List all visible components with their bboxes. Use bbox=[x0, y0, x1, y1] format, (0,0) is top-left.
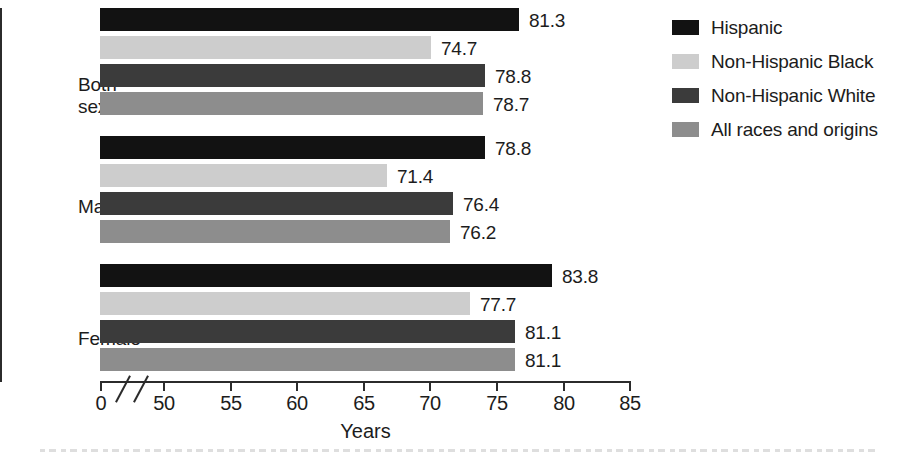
y-axis-line bbox=[0, 8, 2, 382]
bar-non-hispanic-white[interactable] bbox=[100, 192, 453, 215]
x-axis-tick-label: 85 bbox=[619, 392, 641, 414]
bar-value-label: 78.8 bbox=[495, 66, 531, 85]
bar-group-both-sexes: 81.3 74.7 78.8 78.7 bbox=[100, 8, 630, 132]
plot-area: 81.3 74.7 78.8 78.7 78.8 71.4 bbox=[100, 8, 630, 380]
x-axis-line bbox=[100, 381, 631, 383]
bar-value-label: 83.8 bbox=[562, 266, 598, 285]
bar-value-label: 78.8 bbox=[495, 138, 531, 157]
bar-hispanic[interactable] bbox=[100, 264, 552, 287]
bar-value-label: 81.3 bbox=[529, 10, 565, 29]
x-axis-tick bbox=[496, 381, 498, 391]
legend-swatch-icon bbox=[672, 54, 699, 69]
bar-value-label: 77.7 bbox=[480, 294, 516, 313]
x-axis-tick bbox=[230, 381, 232, 391]
x-axis-tick-label: 0 bbox=[96, 392, 107, 414]
life-expectancy-bar-chart: Both sexes Male Female 81.3 74.7 78.8 78… bbox=[0, 0, 916, 455]
legend-item-non-hispanic-white[interactable]: Non-Hispanic White bbox=[672, 84, 875, 106]
bar-value-label: 74.7 bbox=[441, 38, 477, 57]
bar-non-hispanic-black[interactable] bbox=[100, 292, 470, 315]
bar-non-hispanic-black[interactable] bbox=[100, 164, 387, 187]
x-axis-tick bbox=[296, 381, 298, 391]
bar-value-label: 71.4 bbox=[397, 166, 433, 185]
legend-item-non-hispanic-black[interactable]: Non-Hispanic Black bbox=[672, 50, 873, 72]
x-axis-tick-label: 60 bbox=[286, 392, 308, 414]
bar-all-races-and-origins[interactable] bbox=[100, 348, 515, 371]
x-axis-tick-label: 80 bbox=[553, 392, 575, 414]
x-axis-tick bbox=[100, 381, 102, 391]
bar-hispanic[interactable] bbox=[100, 8, 519, 31]
legend-item-hispanic[interactable]: Hispanic bbox=[672, 16, 782, 38]
bar-all-races-and-origins[interactable] bbox=[100, 220, 450, 243]
bar-group-female: 83.8 77.7 81.1 81.1 bbox=[100, 264, 630, 388]
x-axis-tick-label: 55 bbox=[220, 392, 242, 414]
legend-label: Non-Hispanic White bbox=[711, 86, 875, 105]
bar-hispanic[interactable] bbox=[100, 136, 485, 159]
x-axis-tick-label: 75 bbox=[486, 392, 508, 414]
bar-non-hispanic-black[interactable] bbox=[100, 36, 431, 59]
x-axis-tick-label: 50 bbox=[153, 392, 175, 414]
bar-non-hispanic-white[interactable] bbox=[100, 64, 485, 87]
x-axis-tick bbox=[563, 381, 565, 391]
legend-swatch-icon bbox=[672, 20, 699, 35]
legend-label: All races and origins bbox=[711, 120, 878, 139]
bar-value-label: 76.4 bbox=[463, 194, 499, 213]
legend-item-all-races-and-origins[interactable]: All races and origins bbox=[672, 118, 878, 140]
x-axis-tick bbox=[363, 381, 365, 391]
legend-label: Hispanic bbox=[711, 18, 782, 37]
x-axis-title: Years bbox=[100, 420, 631, 442]
scan-artifact bbox=[40, 449, 880, 452]
x-axis-tick bbox=[163, 381, 165, 391]
bar-non-hispanic-white[interactable] bbox=[100, 320, 515, 343]
bar-value-label: 81.1 bbox=[525, 322, 561, 341]
bar-all-races-and-origins[interactable] bbox=[100, 92, 483, 115]
x-axis-tick-label: 65 bbox=[353, 392, 375, 414]
legend-label: Non-Hispanic Black bbox=[711, 52, 873, 71]
x-axis-tick-label: 70 bbox=[419, 392, 441, 414]
bar-value-label: 76.2 bbox=[460, 222, 496, 241]
bar-value-label: 78.7 bbox=[493, 94, 529, 113]
bar-group-male: 78.8 71.4 76.4 76.2 bbox=[100, 136, 630, 260]
legend-swatch-icon bbox=[672, 122, 699, 137]
x-axis-tick bbox=[429, 381, 431, 391]
legend-swatch-icon bbox=[672, 88, 699, 103]
x-axis-tick bbox=[629, 381, 631, 391]
bar-value-label: 81.1 bbox=[525, 350, 561, 369]
